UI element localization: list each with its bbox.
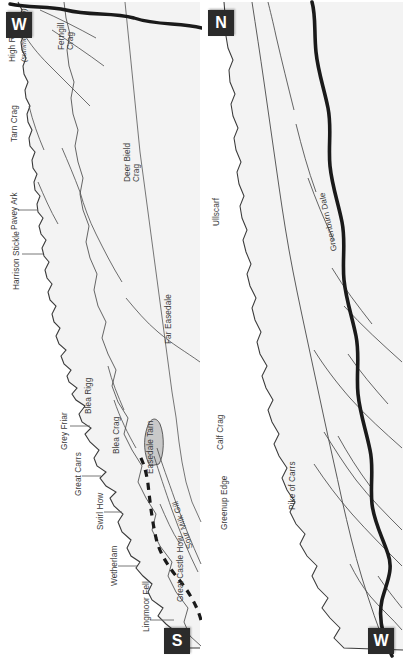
label-lingmoor-fell: Lingmoor Fell	[142, 581, 151, 632]
panel-lower: Greenup Edge Calf Crag Ullscarf Pike of …	[202, 0, 404, 662]
label-blea-rigg: Blea Rigg	[84, 378, 93, 414]
label-ullscarf: Ullscarf	[212, 198, 221, 226]
compass-badge-w-upper: W	[6, 12, 32, 38]
panel-lower-profile	[202, 0, 404, 662]
label-harrison-stickle: Harrison Stickle	[12, 231, 21, 290]
label-swirl-how: Swirl How	[96, 493, 105, 530]
label-calf-crag: Calf Crag	[216, 415, 225, 450]
panel-upper: Lingmoor Fell Wetherlam Swirl How Great …	[0, 0, 202, 662]
label-deer-bield-crag: Deer Bield Crag	[124, 128, 142, 182]
label-grey-friar: Grey Friar	[60, 412, 69, 450]
compass-badge-s: S	[164, 628, 190, 654]
label-tarn-crag: Tarn Crag	[10, 105, 19, 142]
label-greenup-edge: Greenup Edge	[220, 476, 229, 530]
compass-badge-n: N	[208, 10, 234, 36]
compass-badge-w-lower-letter: W	[373, 632, 388, 650]
label-pavey-ark: Pavey Ark	[10, 192, 19, 230]
compass-badge-n-letter: N	[215, 14, 227, 32]
label-blea-crag: Blea Crag	[112, 417, 121, 454]
label-far-easedale: Far Easedale	[164, 294, 173, 344]
label-easedale-tarn: Easedale Tarn	[146, 421, 155, 475]
panorama-diagram-page: Lingmoor Fell Wetherlam Swirl How Great …	[0, 0, 404, 662]
label-pike-of-carrs: Pike of Carrs	[288, 461, 297, 510]
compass-badge-s-letter: S	[172, 632, 183, 650]
label-great-carrs: Great Carrs	[74, 452, 83, 496]
compass-badge-w-lower: W	[368, 628, 394, 654]
label-ferngill-crag: Ferngill Crag	[58, 6, 76, 50]
compass-badge-w-upper-letter: W	[11, 16, 26, 34]
label-wetherlam: Wetherlam	[110, 546, 119, 586]
